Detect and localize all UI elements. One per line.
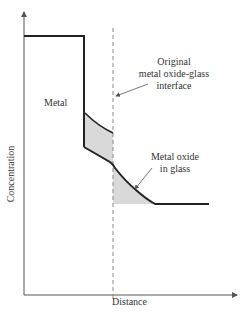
interface-label-2: metal oxide-glass [134,68,214,80]
metal-loss-shade [85,113,113,166]
oxide-label-1: Metal oxide [140,151,210,163]
metal-profile [24,36,84,147]
y-axis-label: Concentration [5,139,17,209]
metal-label: Metal [44,97,67,109]
oxide-label-2: in glass [140,163,210,175]
interface-label-1: Original [134,56,214,68]
interface-label-3: interface [134,80,214,92]
x-axis-label: Distance [112,296,147,308]
